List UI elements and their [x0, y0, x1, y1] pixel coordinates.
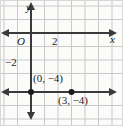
point-0-minus4 — [28, 89, 34, 95]
x-tick-label-2: 2 — [52, 36, 58, 47]
origin-label: O — [17, 36, 25, 47]
x-axis-label: x — [110, 34, 115, 45]
point-label-3-minus4: (3, −4) — [58, 95, 88, 106]
y-axis-label: y — [26, 2, 31, 13]
graph-canvas — [0, 0, 123, 126]
figure-background — [0, 0, 123, 126]
y-tick-label-minus-2: −2 — [5, 57, 17, 68]
coordinate-plane-figure: y x O 2 −2 (0, −4) (3, −4) — [0, 0, 123, 126]
point-label-0-minus4: (0, −4) — [33, 73, 63, 84]
